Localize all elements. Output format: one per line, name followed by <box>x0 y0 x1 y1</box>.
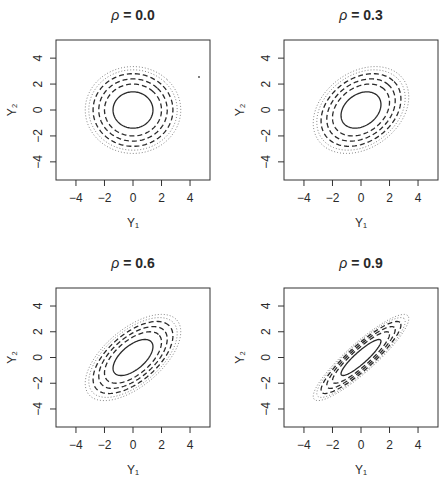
x-tick-label: −2 <box>98 191 112 205</box>
y-tick-label: 4 <box>259 302 273 309</box>
contour-figure: ρ= 0.0 −4−2024 −4−2024 Y₁ Y₂ ρ= 0.3 −4−2… <box>0 0 442 483</box>
contour-dotted <box>89 70 177 150</box>
y-axis-label: Y₂ <box>5 103 19 116</box>
x-tick-label: −2 <box>98 438 112 452</box>
scan-artifacts <box>198 76 200 78</box>
y-tick-label: 2 <box>31 80 45 87</box>
y-tick-label: 2 <box>31 328 45 335</box>
contour-dotted <box>313 67 409 154</box>
panel-rho-0-0: ρ= 0.0 −4−2024 −4−2024 Y₁ Y₂ <box>5 7 210 230</box>
y-tick-label: −4 <box>259 402 273 416</box>
contour-lines <box>313 67 409 154</box>
x-tick-label: 2 <box>158 438 165 452</box>
plot-frame <box>284 40 438 180</box>
x-tick-label: 2 <box>158 191 165 205</box>
contour-dashed <box>332 332 389 383</box>
contour-dashed <box>321 321 401 393</box>
panel-title: ρ= 0.0 <box>110 7 155 23</box>
contour-dashed <box>99 79 167 141</box>
x-tick-label: −4 <box>297 191 311 205</box>
y-tick-label: −2 <box>259 129 273 143</box>
contour-solid <box>113 339 153 375</box>
scan-dot <box>198 76 200 78</box>
x-tick-label: −4 <box>69 191 83 205</box>
y-tick-label: −2 <box>31 376 45 390</box>
x-axis-label: Y₁ <box>355 463 367 477</box>
panel-rho-0-9: ρ= 0.9 −4−2024 −4−2024 Y₁ Y₂ <box>233 255 438 477</box>
contour-dotted <box>85 67 181 154</box>
plot-frame <box>56 40 210 180</box>
x-tick-label: 4 <box>187 438 194 452</box>
panel-rho-0-6: ρ= 0.6 −4−2024 −4−2024 Y₁ Y₂ <box>5 255 210 477</box>
panel-rho-0-3: ρ= 0.3 −4−2024 −4−2024 Y₁ Y₂ <box>233 7 438 230</box>
contour-solid <box>113 92 153 128</box>
x-tick-label: 2 <box>386 191 393 205</box>
x-tick-label: −4 <box>69 438 83 452</box>
x-axis: −4−2024 <box>69 180 194 205</box>
y-tick-label: 0 <box>31 354 45 361</box>
y-tick-label: 0 <box>31 106 45 113</box>
contour-solid <box>341 92 381 128</box>
y-tick-label: −4 <box>259 155 273 169</box>
y-axis: −4−2024 <box>259 54 284 168</box>
y-axis-label: Y₂ <box>233 351 247 364</box>
x-tick-label: 0 <box>130 191 137 205</box>
y-tick-label: 4 <box>31 54 45 61</box>
x-tick-label: 2 <box>386 438 393 452</box>
y-tick-label: 2 <box>259 80 273 87</box>
y-axis-label: Y₂ <box>5 351 19 364</box>
panel-title: ρ= 0.6 <box>110 255 155 271</box>
x-tick-label: 0 <box>130 438 137 452</box>
contour-solid <box>341 339 381 375</box>
y-axis: −4−2024 <box>259 302 284 415</box>
contour-dotted <box>85 314 181 400</box>
contour-lines <box>313 314 409 400</box>
y-tick-label: −4 <box>31 155 45 169</box>
y-tick-label: −4 <box>31 402 45 416</box>
contour-lines <box>85 314 181 400</box>
x-tick-label: 0 <box>358 438 365 452</box>
x-tick-label: 4 <box>415 438 422 452</box>
y-tick-label: 4 <box>259 54 273 61</box>
x-axis: −4−2024 <box>297 180 422 205</box>
x-axis-label: Y₁ <box>127 463 139 477</box>
x-tick-label: 4 <box>415 191 422 205</box>
x-tick-label: 0 <box>358 191 365 205</box>
contour-dashed <box>327 327 395 389</box>
plot-frame <box>284 288 438 427</box>
y-axis-label: Y₂ <box>233 103 247 116</box>
contour-dotted <box>317 318 405 398</box>
y-tick-label: −2 <box>259 376 273 390</box>
x-tick-label: −4 <box>297 438 311 452</box>
plot-frame <box>56 288 210 427</box>
y-axis: −4−2024 <box>31 302 56 415</box>
x-axis-label: Y₁ <box>127 216 139 230</box>
y-axis: −4−2024 <box>31 54 56 168</box>
x-axis-label: Y₁ <box>355 216 367 230</box>
x-tick-label: 4 <box>187 191 194 205</box>
contour-dashed <box>99 327 167 389</box>
y-tick-label: 4 <box>31 302 45 309</box>
x-tick-label: −2 <box>326 191 340 205</box>
panel-title: ρ= 0.9 <box>338 255 383 271</box>
contour-lines <box>85 67 181 154</box>
y-tick-label: 0 <box>259 106 273 113</box>
y-tick-label: 2 <box>259 328 273 335</box>
contour-dotted <box>313 314 409 400</box>
contour-dotted <box>317 70 405 150</box>
y-tick-label: −2 <box>31 129 45 143</box>
y-tick-label: 0 <box>259 354 273 361</box>
x-axis: −4−2024 <box>297 427 422 452</box>
x-tick-label: −2 <box>326 438 340 452</box>
x-axis: −4−2024 <box>69 427 194 452</box>
panel-title: ρ= 0.3 <box>338 7 383 23</box>
